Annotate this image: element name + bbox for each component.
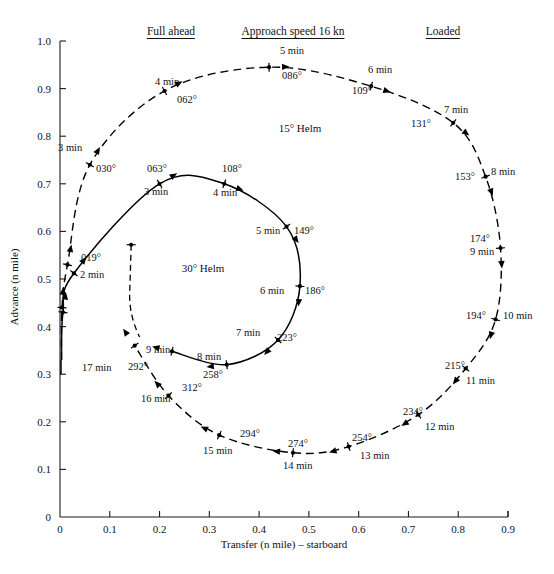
callout-c-8min-dash: 8 min bbox=[491, 166, 515, 178]
callout-c-086: 086° bbox=[282, 70, 302, 82]
x-tick-label: 0 bbox=[57, 523, 63, 535]
x-tick-label: 0.2 bbox=[153, 523, 167, 535]
inner-dashed-stub bbox=[130, 245, 140, 337]
direction-arrow bbox=[67, 245, 73, 253]
callout-c-10min-dash: 10 min bbox=[503, 310, 532, 322]
x-tick-label: 0.6 bbox=[352, 523, 366, 535]
y-tick-label: 0.3 bbox=[37, 368, 51, 380]
heading-tick bbox=[58, 307, 67, 308]
callout-c-194: 194° bbox=[466, 310, 486, 322]
direction-arrow bbox=[329, 447, 337, 453]
x-tick-label: 0.3 bbox=[202, 523, 216, 535]
callout-c-5min-dash: 5 min bbox=[280, 45, 304, 57]
callout-c-4min-dash: 4 min bbox=[155, 76, 179, 88]
label-helm-15: 15° Helm bbox=[279, 122, 322, 134]
callout-c-14min-dash: 14 min bbox=[283, 460, 312, 472]
header-text: Approach speed 16 kn bbox=[241, 25, 344, 39]
callout-c-109: 109° bbox=[352, 85, 372, 97]
header-text: Full ahead bbox=[147, 25, 195, 39]
header-full-ahead: Full ahead bbox=[147, 25, 195, 39]
x-tick-label: 0.1 bbox=[103, 523, 117, 535]
x-tick-label: 0.5 bbox=[302, 523, 316, 535]
callout-c-15min-dash: 15 min bbox=[203, 445, 232, 457]
x-tick-label: 0.7 bbox=[402, 523, 416, 535]
y-tick-label: 0 bbox=[46, 511, 52, 523]
callout-c-292-dash: 292° bbox=[128, 361, 148, 373]
callout-c-12min-dash: 12 min bbox=[425, 421, 454, 433]
callout-c-294: 294° bbox=[240, 428, 260, 440]
direction-arrow bbox=[383, 87, 391, 93]
direction-arrow bbox=[273, 448, 281, 454]
callout-c-063: 063° bbox=[147, 163, 167, 175]
y-tick-label: 0.6 bbox=[37, 225, 51, 237]
y-tick-label: 0.9 bbox=[37, 83, 51, 95]
callout-c-3min-dash: 3 min bbox=[58, 142, 82, 154]
callout-c-174: 174° bbox=[470, 233, 490, 245]
x-tick-label: 0.4 bbox=[252, 523, 266, 535]
callout-c-254: 254° bbox=[352, 432, 372, 444]
callout-c-13min-dash: 13 min bbox=[360, 450, 389, 462]
y-tick-label: 0.5 bbox=[37, 273, 51, 285]
callout-c-131: 131° bbox=[411, 118, 431, 130]
callout-c-4min-sol: 4 min bbox=[213, 187, 237, 199]
callout-c-5min-sol: 5 min bbox=[256, 225, 280, 237]
callout-c-6min-sol: 6 min bbox=[260, 285, 284, 297]
heading-tick bbox=[63, 264, 72, 266]
callout-c-030: 030° bbox=[96, 163, 116, 175]
callout-c-062: 062° bbox=[177, 94, 197, 106]
turning-circle-figure: Advance (n mile) Transfer (n mile) – sta… bbox=[0, 0, 554, 574]
y-tick-label: 0.4 bbox=[37, 321, 51, 333]
callout-c-019: 019° bbox=[81, 252, 101, 264]
x-tick-label: 0.8 bbox=[451, 523, 465, 535]
callout-c-149: 149° bbox=[294, 225, 314, 237]
callout-c-108: 108° bbox=[222, 163, 242, 175]
y-tick-label: 0.2 bbox=[37, 416, 51, 428]
callout-c-312: 312° bbox=[182, 382, 202, 394]
callout-c-258: 258° bbox=[203, 369, 223, 381]
label-helm-30: 30° Helm bbox=[182, 262, 225, 274]
callout-c-17min-dash: 17 min bbox=[82, 362, 111, 374]
callout-c-186: 186° bbox=[305, 285, 325, 297]
direction-arrow bbox=[123, 329, 130, 337]
y-tick-label: 0.8 bbox=[37, 130, 51, 142]
callout-c-9min-sol: 9 min bbox=[146, 344, 170, 356]
axes bbox=[60, 41, 508, 517]
callout-c-9min-dash: 9 min bbox=[470, 246, 494, 258]
callout-c-11min-dash: 11 min bbox=[466, 375, 495, 387]
callout-c-8min-sol: 8 min bbox=[197, 351, 221, 363]
direction-arrow bbox=[487, 188, 493, 196]
heading-tick bbox=[496, 248, 505, 249]
direction-arrow bbox=[498, 261, 504, 269]
y-tick-label: 0.7 bbox=[37, 178, 51, 190]
header-loaded: Loaded bbox=[426, 25, 460, 39]
callout-c-223: 223° bbox=[277, 332, 297, 344]
callout-c-3min-sol: 3 min bbox=[144, 186, 168, 198]
y-axis-title: Advance (n mile) bbox=[8, 249, 20, 326]
callout-c-274: 274° bbox=[288, 438, 308, 450]
x-tick-label: 0.9 bbox=[501, 523, 515, 535]
heading-tick bbox=[295, 286, 304, 287]
y-tick-label: 1.0 bbox=[37, 35, 51, 47]
callout-c-6min-dash: 6 min bbox=[368, 64, 392, 76]
y-tick-label: 0.1 bbox=[37, 463, 51, 475]
callout-c-2min-sol: 2 min bbox=[80, 269, 104, 281]
header-approach-speed: Approach speed 16 kn bbox=[241, 25, 344, 39]
callout-c-16min-dash: 16 min bbox=[141, 393, 170, 405]
x-axis-title: Transfer (n mile) – starboard bbox=[221, 538, 348, 550]
callout-c-153: 153° bbox=[455, 171, 475, 183]
header-text: Loaded bbox=[426, 25, 460, 39]
heading-tick bbox=[226, 360, 227, 369]
direction-arrow bbox=[489, 331, 495, 339]
callout-c-215: 215° bbox=[445, 360, 465, 372]
callout-c-7min-dash: 7 min bbox=[444, 104, 468, 116]
callout-c-7min-sol: 7 min bbox=[236, 327, 260, 339]
callout-c-234: 234° bbox=[403, 406, 423, 418]
